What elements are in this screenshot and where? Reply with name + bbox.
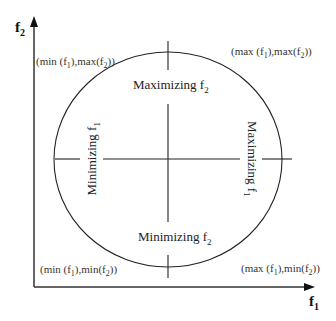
corner-label-top-right: (max (f1),max(f2)) bbox=[231, 45, 312, 60]
direction-label-right: Maximizing f1 bbox=[242, 114, 260, 204]
direction-label-bottom: Minimizing f2 bbox=[138, 229, 211, 247]
y-axis-arrow-icon bbox=[30, 16, 38, 27]
corner-label-top-left: (min (f1),max(f2)) bbox=[36, 55, 115, 70]
x-axis-arrow-icon bbox=[304, 283, 315, 291]
y-axis-label: f2 bbox=[15, 19, 25, 38]
direction-label-left: Minimizing f1 bbox=[84, 114, 102, 204]
direction-label-top: Maximizing f2 bbox=[133, 77, 209, 95]
corner-label-bottom-right: (max (f1),min(f2)) bbox=[241, 262, 320, 277]
corner-label-bottom-left: (min (f1),min(f2)) bbox=[40, 263, 117, 278]
x-axis-label: f1 bbox=[309, 293, 319, 312]
